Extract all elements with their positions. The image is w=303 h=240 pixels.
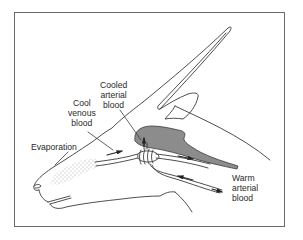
ear-icon: [160, 93, 198, 119]
vein-from-nose: [95, 154, 138, 166]
leader-evaporation: [55, 152, 68, 165]
arrow-arterial-in: [178, 176, 193, 180]
leader-cool-venous: [88, 132, 113, 150]
leader-cooled-arterial: [120, 110, 141, 140]
horn-icon: [143, 27, 231, 109]
arrow-venous-to-rete: [107, 151, 122, 155]
label-cool-venous-blood: Cool venous blood: [68, 98, 96, 128]
label-cooled-arterial-blood: Cooled arterial blood: [100, 80, 127, 110]
label-evaporation: Evaporation: [31, 142, 77, 152]
label-warm-arterial-blood: Warm arterial blood: [232, 173, 258, 203]
